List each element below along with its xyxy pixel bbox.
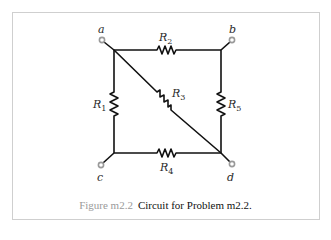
terminal-b — [229, 37, 234, 42]
caption-text: Circuit for Problem m2.2. — [138, 199, 252, 211]
wire-r2 — [114, 46, 221, 54]
terminal-a — [99, 37, 104, 42]
resistor-label-r4: R4 — [159, 161, 173, 176]
wire-r4 — [114, 149, 221, 157]
figure-number: Figure m2.2 — [79, 199, 133, 211]
resistor-label-r1: R1 — [92, 98, 106, 113]
node-label-d: d — [227, 171, 234, 184]
wire-r3 — [114, 50, 221, 153]
terminal-d — [229, 161, 234, 166]
resistor-label-r3: R3 — [171, 87, 185, 102]
node-label-c: c — [97, 171, 103, 184]
resistor-label-r5: R5 — [227, 98, 241, 113]
resistor-label-r2: R2 — [158, 31, 172, 46]
node-label-a: a — [98, 23, 105, 36]
terminal-c — [98, 162, 103, 167]
figure-caption: Figure m2.2Circuit for Problem m2.2. — [0, 199, 331, 211]
wire-r1 — [110, 50, 118, 153]
wire-r5 — [217, 50, 225, 153]
node-label-b: b — [229, 23, 236, 36]
